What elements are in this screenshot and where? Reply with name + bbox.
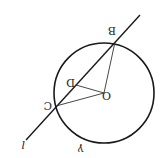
segment-OD <box>76 85 104 93</box>
geometry-diagram: B O D C γ l <box>0 0 165 158</box>
label-l: l <box>21 138 25 151</box>
label-D: D <box>66 76 75 89</box>
segment-OB <box>104 42 115 93</box>
diagram-canvas: B O D C γ l <box>0 0 165 158</box>
label-C: C <box>44 99 52 112</box>
line-l <box>26 15 140 140</box>
label-O: O <box>102 89 111 102</box>
label-gamma: γ <box>77 143 84 156</box>
label-B: B <box>108 24 116 37</box>
